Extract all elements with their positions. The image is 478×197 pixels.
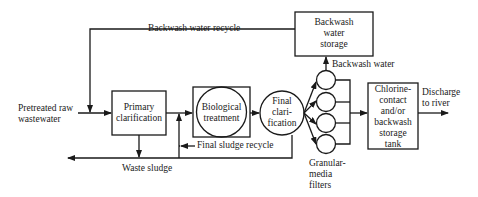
filter-circle-4: [317, 135, 336, 154]
backwash-storage-label: Backwash water storage: [297, 17, 371, 50]
waste-sludge-label: Waste sludge: [122, 163, 172, 174]
final-clarification-label: Final clari- fication: [260, 96, 304, 129]
primary-clarification-label: Primary clarification: [112, 102, 166, 124]
input-label: Pretreated raw wastewater: [18, 103, 73, 125]
chlorine-contact-label: Chlorine- contact and/or backwash storag…: [368, 84, 418, 150]
filter-circle-3: [317, 114, 336, 133]
discharge-label: Discharge to river: [422, 87, 460, 109]
filter-circle-2: [317, 93, 336, 112]
filters-label: Granular- media filters: [309, 158, 346, 191]
backwash-recycle-label: Backwash water recycle: [148, 23, 240, 34]
filter-circle-1: [317, 71, 336, 90]
backwash-water-label: Backwash water: [332, 59, 395, 70]
final-sludge-recycle-label: Final sludge recycle: [197, 140, 274, 151]
biological-treatment-label: Biological treatment: [193, 102, 250, 124]
